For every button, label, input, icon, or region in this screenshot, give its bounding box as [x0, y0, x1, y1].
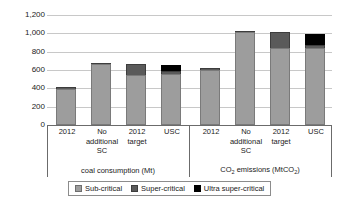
bar-coal-2012-target [126, 64, 146, 125]
bar-co2-2012 [200, 68, 220, 125]
segment-super-critical [270, 32, 290, 48]
segment-sub-critical [56, 89, 76, 125]
co2-title-post: ) [297, 165, 300, 174]
segment-ultra-super-critical [305, 34, 325, 45]
super-critical-swatch-icon [131, 185, 138, 192]
chart-legend: Sub-critical Super-critical Ultra super-… [68, 181, 271, 196]
category-axis: 2012 No additional SC 2012 target USC 20… [47, 125, 332, 177]
co2-title-pre: CO [220, 165, 231, 174]
bar-coal-no-additional-sc [91, 63, 111, 125]
y-tick-1200: 1,200 [1, 11, 45, 19]
y-tick-800: 800 [1, 48, 45, 56]
segment-sub-critical [91, 64, 111, 125]
bar-co2-usc [305, 34, 325, 125]
segment-sub-critical [200, 70, 220, 125]
segment-sub-critical [235, 32, 255, 125]
segment-sub-critical [305, 48, 325, 126]
sub-critical-swatch-icon [75, 185, 82, 192]
group-title-co2-emissions: CO2 emissions (MtCO2) [190, 165, 330, 175]
bar-co2-no-additional-sc [235, 31, 255, 125]
y-tick-400: 400 [1, 84, 45, 92]
bar-co2-2012-target [270, 32, 290, 125]
y-tick-200: 200 [1, 103, 45, 111]
y-tick-600: 600 [1, 66, 45, 74]
plot-area [47, 15, 332, 125]
legend-item-ultra-super-critical: Ultra super-critical [194, 185, 264, 193]
category-label-co2-usc: USC [293, 127, 339, 137]
legend-item-super-critical: Super-critical [131, 185, 185, 193]
co2-title-sub1: 2 [232, 169, 235, 175]
co2-title-sub2: 2 [294, 169, 297, 175]
legend-label-sub-critical: Sub-critical [85, 185, 122, 193]
legend-label-ultra-super-critical: Ultra super-critical [204, 185, 264, 193]
bar-coal-usc [161, 65, 181, 125]
co2-title-mid: emissions (MtCO [235, 165, 295, 174]
segment-sub-critical [161, 74, 181, 125]
y-tick-0: 0 [1, 121, 45, 129]
y-tick-1000: 1,000 [1, 29, 45, 37]
bar-coal-2012 [56, 87, 76, 125]
legend-item-sub-critical: Sub-critical [75, 185, 122, 193]
segment-sub-critical [270, 48, 290, 125]
group-title-coal-consumption: coal consumption (Mt) [48, 166, 188, 175]
gridline-1200 [47, 15, 332, 16]
stacked-bar-chart: 1,200 1,000 800 600 400 200 0 [0, 0, 343, 205]
ultra-super-critical-swatch-icon [194, 185, 201, 192]
segment-super-critical [126, 64, 146, 75]
y-axis-labels: 1,200 1,000 800 600 400 200 0 [0, 15, 45, 125]
legend-label-super-critical: Super-critical [141, 185, 185, 193]
segment-sub-critical [126, 75, 146, 125]
